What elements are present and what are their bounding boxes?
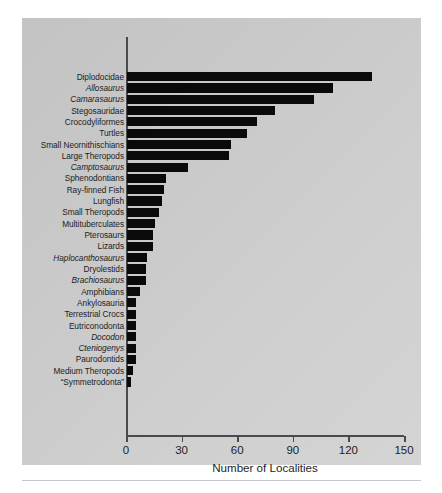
bar-row: Lungfish — [22, 195, 421, 206]
x-axis-tick-label: 90 — [286, 444, 299, 456]
bar-category-label: Terrestrial Crocs — [64, 310, 124, 318]
bar-row: Docodon — [22, 331, 421, 342]
bar-category-label: Ankylosauria — [77, 299, 124, 307]
x-axis-tick — [237, 436, 239, 442]
bar-row: Ray-finned Fish — [22, 184, 421, 195]
bar-category-label: Dryolestids — [84, 265, 125, 273]
bar — [127, 242, 153, 251]
x-axis-line — [126, 435, 404, 437]
bar-row: Small Theropods — [22, 207, 421, 218]
chart-panel: DiplodocidaeAllosaurusCamarasaurusStegos… — [22, 18, 421, 465]
bar-category-label: Pterosaurs — [84, 231, 124, 239]
x-axis-tick-label: 0 — [123, 444, 129, 456]
bar — [127, 174, 166, 183]
bar-row: Camarasaurus — [22, 94, 421, 105]
bar — [127, 377, 131, 386]
bar-row: Haplocanthosaurus — [22, 252, 421, 263]
x-axis-tick — [404, 436, 406, 442]
bar-category-label: “Symmetrodonta” — [61, 378, 124, 386]
x-axis-tick — [182, 436, 184, 442]
bar-row: Terrestrial Crocs — [22, 309, 421, 320]
bar-row: Paurodontids — [22, 354, 421, 365]
x-axis-tick — [293, 436, 295, 442]
bar-row: Allosaurus — [22, 82, 421, 93]
bar-category-label: Large Theropods — [62, 152, 124, 160]
bar-category-label: Allosaurus — [86, 84, 124, 92]
x-axis-tick-label: 60 — [231, 444, 244, 456]
bar-category-label: Camarasaurus — [70, 95, 124, 103]
bar — [127, 264, 146, 273]
bar — [127, 163, 188, 172]
bar — [127, 332, 136, 341]
x-axis-tick — [348, 436, 350, 442]
bar — [127, 95, 314, 104]
bar — [127, 140, 231, 149]
bar-category-label: Crocodyliformes — [65, 118, 124, 126]
bar-row: Small Neornithischians — [22, 139, 421, 150]
bar-category-label: Stegosauridae — [71, 106, 124, 114]
bar-category-label: Multituberculates — [62, 220, 124, 228]
bar-row: Camptosaurus — [22, 162, 421, 173]
x-axis-tick-label: 30 — [175, 444, 188, 456]
x-axis-tick — [126, 436, 128, 442]
bar — [127, 185, 164, 194]
x-axis-tick-label: 120 — [339, 444, 358, 456]
bar-category-label: Docodon — [91, 333, 124, 341]
figure: DiplodocidaeAllosaurusCamarasaurusStegos… — [0, 0, 442, 493]
bar-row: Medium Theropods — [22, 365, 421, 376]
bar-category-label: Lungfish — [93, 197, 124, 205]
bar — [127, 117, 257, 126]
bar-category-label: Small Neornithischians — [41, 140, 124, 148]
bar — [127, 72, 372, 81]
bar-row: Turtles — [22, 128, 421, 139]
bar — [127, 208, 159, 217]
bar-category-label: Cteniogenys — [78, 344, 124, 352]
bar-category-label: Camptosaurus — [71, 163, 124, 171]
bar-row: Multituberculates — [22, 218, 421, 229]
x-axis-tick-label: 150 — [394, 444, 413, 456]
bar — [127, 106, 275, 115]
bar-category-label: Amphibians — [81, 287, 124, 295]
bar-row: Ankylosauria — [22, 297, 421, 308]
bar — [127, 253, 147, 262]
bar-category-label: Eutriconodonta — [69, 321, 124, 329]
bar-category-label: Small Theropods — [62, 208, 124, 216]
bar — [127, 366, 133, 375]
bar — [127, 287, 140, 296]
bar-row: Dryolestids — [22, 263, 421, 274]
bar-rows: DiplodocidaeAllosaurusCamarasaurusStegos… — [22, 71, 421, 388]
bar-category-label: Lizards — [98, 242, 124, 250]
bar — [127, 151, 229, 160]
bar-row: Sphenodontians — [22, 173, 421, 184]
bar-row: Pterosaurs — [22, 229, 421, 240]
plot-area: DiplodocidaeAllosaurusCamarasaurusStegos… — [22, 18, 421, 465]
bar-category-label: Medium Theropods — [53, 367, 124, 375]
bar-category-label: Diplodocidae — [77, 73, 124, 81]
bar — [127, 276, 146, 285]
bar-category-label: Sphenodontians — [65, 174, 124, 182]
bar-category-label: Haplocanthosaurus — [53, 254, 124, 262]
bar — [127, 321, 136, 330]
bar-category-label: Paurodontids — [76, 355, 124, 363]
bar-row: Brachiosaurus — [22, 275, 421, 286]
bar-row: Eutriconodonta — [22, 320, 421, 331]
bar-row: Lizards — [22, 241, 421, 252]
bar-row: Diplodocidae — [22, 71, 421, 82]
bar — [127, 344, 136, 353]
bottom-divider — [22, 480, 421, 481]
bar — [127, 355, 136, 364]
bar-category-label: Ray-finned Fish — [67, 186, 124, 194]
bar — [127, 310, 136, 319]
bar — [127, 230, 153, 239]
bar-row: Large Theropods — [22, 150, 421, 161]
bar — [127, 219, 155, 228]
bar-row: Stegosauridae — [22, 105, 421, 116]
bar-row: Crocodyliformes — [22, 116, 421, 127]
bar-category-label: Brachiosaurus — [72, 276, 124, 284]
bar — [127, 196, 162, 205]
bar — [127, 83, 333, 92]
bar — [127, 298, 136, 307]
bar-row: Amphibians — [22, 286, 421, 297]
bar-row: “Symmetrodonta” — [22, 376, 421, 387]
bar — [127, 129, 247, 138]
